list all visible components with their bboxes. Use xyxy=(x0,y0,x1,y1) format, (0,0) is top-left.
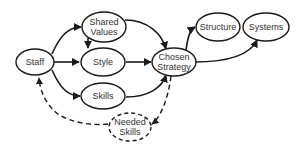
node-label-skills: Skills xyxy=(92,91,114,101)
node-shared-values: Shared Values xyxy=(82,12,126,42)
node-label-staff: Staff xyxy=(26,57,45,67)
node-label-structure: Structure xyxy=(200,22,237,32)
node-label-style: Style xyxy=(93,57,113,67)
node-label-shared: Shared xyxy=(89,17,118,27)
edge-staff-to-shared-values xyxy=(52,27,81,54)
edge-chosen-strategy-to-systems xyxy=(194,40,257,62)
node-label-needed: Needed xyxy=(114,117,146,127)
node-staff: Staff xyxy=(16,49,54,75)
node-needed-skills: Needed Skills xyxy=(109,113,151,141)
node-label-chosen: Chosen xyxy=(158,52,189,62)
edge-skills-to-chosen-strategy xyxy=(126,75,166,97)
strategy-diagram: Staff Shared Values Style Skills Chosen … xyxy=(0,0,302,147)
node-label-systems: Systems xyxy=(249,22,284,32)
edge-staff-to-skills xyxy=(52,70,80,96)
edge-shared-values-to-chosen-strategy xyxy=(125,20,166,49)
node-label-strategy: Strategy xyxy=(157,62,191,72)
node-skills: Skills xyxy=(81,83,125,109)
node-chosen-strategy: Chosen Strategy xyxy=(152,48,196,76)
edge-chosen-strategy-to-structure xyxy=(186,27,195,50)
node-label-values: Values xyxy=(91,27,118,37)
node-label-needed-skills: Skills xyxy=(119,127,141,137)
node-style: Style xyxy=(81,48,125,76)
node-systems: Systems xyxy=(243,13,289,41)
node-structure: Structure xyxy=(196,13,240,41)
